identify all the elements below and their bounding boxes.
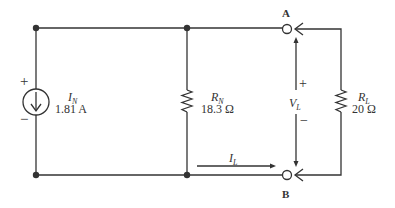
terminal-a-label: A [282, 7, 290, 19]
source-plus-sign: + [20, 73, 28, 89]
terminal-b-label: B [282, 188, 290, 200]
load-resistor-value: 20 Ω [352, 102, 376, 116]
il-arrow-tip-icon [270, 164, 276, 169]
load-voltage-plus: + [299, 76, 307, 91]
vl-arrow-down-tip-icon [294, 161, 299, 167]
terminal-b-icon [283, 171, 292, 180]
junction-bottom-middle [184, 172, 190, 178]
norton-resistor-icon [182, 90, 192, 112]
load-current-symbol: IL [228, 151, 238, 167]
junction-top-left [33, 25, 39, 31]
load-voltage-symbol: VL [289, 96, 301, 112]
load-voltage-minus: − [300, 113, 308, 128]
vl-arrow-up-tip-icon [294, 37, 299, 43]
load-resistor-icon [336, 90, 346, 112]
junction-bottom-left [33, 172, 39, 178]
source-minus-sign: − [20, 111, 28, 127]
terminal-a-icon [283, 25, 292, 34]
norton-resistor-value: 18.3 Ω [201, 102, 234, 116]
circuit-diagram: + − IN 1.81 A RN 18.3 Ω A B + VL − RL 20… [0, 0, 395, 208]
source-value: 1.81 A [55, 102, 87, 116]
junction-top-middle [184, 25, 190, 31]
